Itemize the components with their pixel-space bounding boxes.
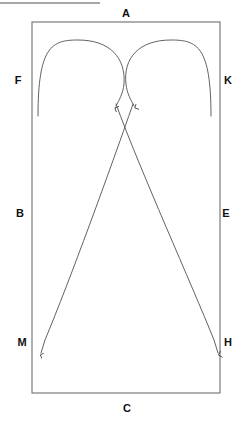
label-m: M	[17, 337, 26, 348]
diagram-svg	[0, 0, 245, 425]
label-k: K	[224, 75, 232, 86]
label-e: E	[222, 208, 229, 219]
diagonal-arrow-to-h	[116, 104, 218, 353]
left-curved-arrow	[38, 40, 124, 116]
label-c: C	[123, 403, 131, 414]
label-h: H	[224, 337, 232, 348]
right-curved-arrow	[126, 40, 211, 116]
label-b: B	[16, 208, 24, 219]
diagonal-arrow-to-m	[41, 104, 133, 353]
diagram-canvas: A F K B E M H C	[0, 0, 245, 425]
label-f: F	[15, 75, 22, 86]
label-a: A	[122, 8, 130, 19]
